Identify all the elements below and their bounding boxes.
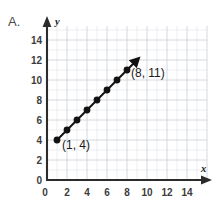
x-tick-labels: 0 2 4 6 8 10 12 14 <box>42 187 193 198</box>
x-tick-label: 6 <box>104 187 110 198</box>
y-tick-labels: 0 2 4 6 8 10 12 14 <box>31 35 43 186</box>
coordinate-plane-chart: y x 0 2 4 6 8 10 12 14 0 2 4 6 8 10 12 1… <box>0 0 219 208</box>
y-tick-label: 0 <box>36 175 42 186</box>
x-tick-label: 10 <box>141 187 153 198</box>
figure-container: A. <box>0 0 219 208</box>
x-axis-name: x <box>200 163 206 174</box>
data-point <box>124 67 131 74</box>
y-tick-label: 4 <box>36 135 42 146</box>
y-tick-label: 8 <box>36 95 42 106</box>
x-tick-label: 14 <box>181 187 193 198</box>
data-point <box>114 77 121 84</box>
data-point <box>94 97 101 104</box>
x-tick-label: 4 <box>84 187 90 198</box>
point-annotation-start: (1, 4) <box>62 138 90 152</box>
data-point <box>54 137 61 144</box>
point-annotation-end: (8, 11) <box>131 66 165 80</box>
data-point <box>84 107 91 114</box>
data-point <box>74 117 81 124</box>
y-tick-label: 10 <box>31 75 43 86</box>
y-axis-arrowhead <box>43 16 52 27</box>
grid-major <box>47 26 207 180</box>
y-tick-label: 6 <box>36 115 42 126</box>
y-axis-name: y <box>53 16 60 27</box>
data-point <box>104 87 111 94</box>
x-tick-label: 8 <box>124 187 130 198</box>
x-tick-label: 0 <box>42 187 48 198</box>
y-tick-label: 14 <box>31 35 43 46</box>
x-tick-label: 12 <box>161 187 173 198</box>
y-tick-label: 2 <box>36 155 42 166</box>
y-tick-label: 12 <box>31 55 43 66</box>
x-tick-label: 2 <box>64 187 70 198</box>
data-point <box>64 127 71 134</box>
x-axis-arrowhead <box>201 176 212 185</box>
